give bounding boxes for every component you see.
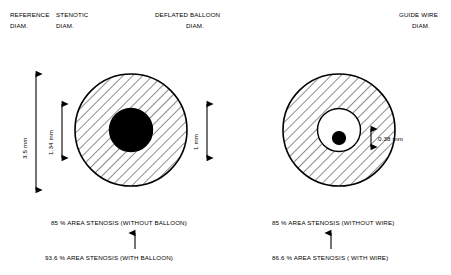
guide-wire-circle: [333, 132, 346, 145]
left-stenosis-without-balloon: 85 % AREA STENOSIS (WITHOUT BALLOON): [51, 219, 187, 227]
heading-guide-wire-diam-line2: DIAM.: [412, 22, 430, 30]
heading-reference-diam-line2: DIAM.: [10, 22, 28, 30]
label-reference-diameter: 3.5 mm: [21, 137, 28, 159]
heading-stenotic-diam-line1: STENOTIC: [56, 11, 88, 19]
label-wire-diameter: 0.38 mm: [378, 135, 403, 143]
right-stenosis-without-wire: 85 % AREA STENOSIS (WITHOUT WIRE): [272, 219, 394, 227]
right-stenosis-with-wire: 86.6 % AREA STENOSIS ( WITH WIRE): [272, 254, 388, 262]
diagram-canvas: REFERENCE DIAM. STENOTIC DIAM. DEFLATED …: [0, 0, 451, 275]
label-stenotic-diameter: 1.34 mm: [47, 130, 54, 155]
heading-deflated-balloon-diam-line1: DEFLATED BALLOON: [155, 11, 220, 19]
heading-deflated-balloon-diam-line2: DIAM.: [186, 22, 204, 30]
left-stenosis-with-balloon: 93.6 % AREA STENOSIS (WITH BALLOON): [45, 254, 173, 262]
label-balloon-diameter: 1 mm: [192, 134, 199, 150]
heading-stenotic-diam-line2: DIAM.: [56, 22, 74, 30]
heading-reference-diam-line1: REFERENCE: [10, 11, 50, 19]
heading-guide-wire-diam-line1: GUIDE WIRE: [399, 11, 438, 19]
